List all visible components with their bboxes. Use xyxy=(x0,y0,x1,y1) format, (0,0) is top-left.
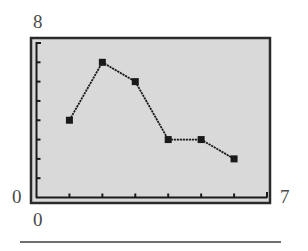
x-max-label: 7 xyxy=(280,187,290,206)
y-max-label: 8 xyxy=(33,12,43,31)
bottom-rule xyxy=(20,241,281,243)
data-point-marker xyxy=(231,155,238,162)
data-point-marker xyxy=(99,59,106,66)
line-chart xyxy=(0,0,308,251)
data-point-marker xyxy=(132,78,139,85)
data-point-marker xyxy=(198,136,205,143)
data-point-marker xyxy=(66,117,73,124)
y-min-label: 0 xyxy=(12,187,22,206)
data-point-marker xyxy=(165,136,172,143)
x-min-label: 0 xyxy=(33,210,43,229)
